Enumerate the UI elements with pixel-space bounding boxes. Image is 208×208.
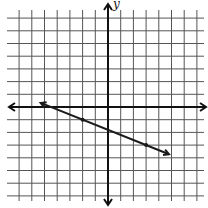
y-axis-label: y xyxy=(113,0,120,11)
grid-lines xyxy=(7,10,204,201)
coordinate-plane xyxy=(0,0,208,208)
data-line-segment xyxy=(41,103,169,154)
data-point xyxy=(144,143,148,147)
data-line xyxy=(41,102,169,155)
axes xyxy=(9,4,206,205)
data-point xyxy=(81,118,85,122)
